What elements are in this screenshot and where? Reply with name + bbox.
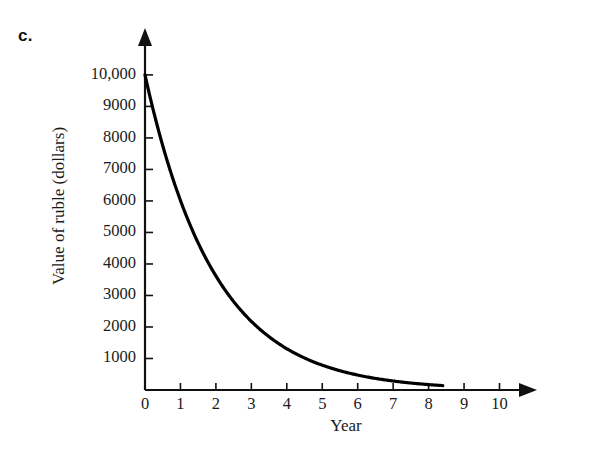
y-tick-label: 2000 — [50, 316, 136, 336]
figure-container: c. Value of ruble (dollars) Year 1000200… — [0, 0, 616, 456]
decay-curve — [145, 75, 443, 386]
axes-group — [138, 28, 537, 397]
x-tick-label: 6 — [338, 394, 378, 414]
y-axis-arrowhead — [138, 28, 152, 46]
y-tick-label: 8000 — [50, 127, 136, 147]
y-tick-label: 3000 — [50, 284, 136, 304]
y-tick-label: 6000 — [50, 190, 136, 210]
y-tick-marks — [145, 75, 153, 359]
y-tick-label: 10,000 — [50, 64, 136, 84]
x-tick-label: 2 — [196, 394, 236, 414]
y-tick-label: 7000 — [50, 158, 136, 178]
x-tick-label: 7 — [373, 394, 413, 414]
x-tick-label: 4 — [267, 394, 307, 414]
y-tick-label: 4000 — [50, 253, 136, 273]
x-tick-label: 0 — [125, 394, 165, 414]
x-tick-label: 9 — [444, 394, 484, 414]
x-axis-arrowhead — [519, 383, 537, 397]
x-tick-label: 10 — [480, 394, 520, 414]
x-tick-label: 5 — [302, 394, 342, 414]
x-tick-label: 8 — [409, 394, 449, 414]
y-tick-label: 5000 — [50, 221, 136, 241]
y-tick-label: 9000 — [50, 95, 136, 115]
x-tick-label: 1 — [160, 394, 200, 414]
x-tick-label: 3 — [231, 394, 271, 414]
y-tick-label: 1000 — [50, 347, 136, 367]
